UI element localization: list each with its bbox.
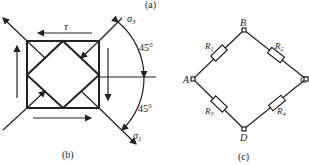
shear-label: τ bbox=[64, 20, 69, 32]
panel-c-label: (c) bbox=[238, 151, 249, 163]
node-a-label: A bbox=[182, 74, 190, 85]
r4-label: R4 bbox=[276, 106, 286, 117]
node-b-terminal bbox=[242, 28, 246, 32]
r3-label: R3 bbox=[204, 106, 214, 117]
sigma3-direction-line bbox=[99, 18, 122, 41]
node-d-label: D bbox=[239, 132, 248, 143]
sigma3-direction-arrow-left bbox=[3, 18, 27, 41]
r2-label: R2 bbox=[274, 41, 284, 52]
node-a-terminal bbox=[191, 77, 195, 81]
node-b-label: B bbox=[240, 17, 246, 28]
sigma1-label: σ1 bbox=[133, 130, 141, 143]
stress-element-diagram bbox=[3, 18, 156, 144]
sigma3-label: σ3 bbox=[127, 13, 136, 26]
node-d-terminal bbox=[242, 127, 246, 131]
panel-b-label: (b) bbox=[62, 149, 74, 161]
resistor-r3 bbox=[211, 96, 227, 112]
angle-bottom-label: 45° bbox=[138, 103, 152, 114]
diagram-canvas: (a) τ σ3 σ1 45° 45° (b) bbox=[0, 0, 309, 165]
sigma1-direction-arrow bbox=[99, 108, 136, 144]
angle-top-label: 45° bbox=[139, 42, 153, 53]
panel-a-label: (a) bbox=[145, 0, 156, 11]
r1-label: R1 bbox=[204, 41, 214, 52]
node-c-label: C bbox=[300, 74, 307, 85]
